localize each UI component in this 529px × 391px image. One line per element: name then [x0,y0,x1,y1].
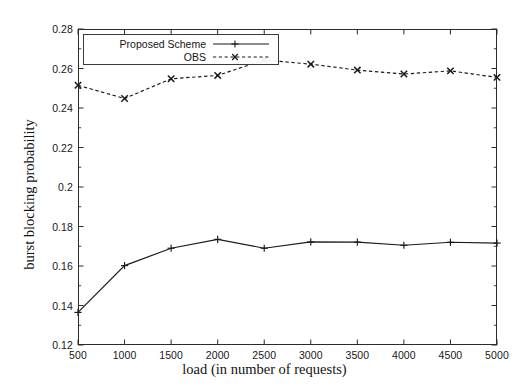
y-axis-title: burst blocking probability [21,70,38,320]
figure: 0.280.260.240.220.20.180.160.140.12 5001… [0,0,529,391]
legend-item-obs: OBS [84,50,273,63]
x-tick-label: 4000 [392,349,416,361]
legend-label: OBS [184,51,206,63]
x-tick-label: 1500 [159,349,183,361]
y-tick-label: 0.24 [52,102,73,114]
legend-label: Proposed Scheme [120,38,206,50]
x-tick-label: 2000 [206,349,230,361]
x-tick-label: 2500 [252,349,276,361]
x-tick-label: 1000 [113,349,137,361]
legend-item-proposed-scheme: Proposed Scheme [84,37,273,50]
plot-area [78,29,497,345]
x-tick-label: 3500 [345,349,369,361]
legend: Proposed Scheme OBS [83,34,279,65]
x-tick-label: 3000 [299,349,323,361]
y-tick-label: 0.18 [52,221,73,233]
x-tick-label: 4500 [439,349,463,361]
y-tick-label: 0.16 [52,260,73,272]
x-tick-label: 500 [69,349,87,361]
x-tick-label: 5000 [485,349,509,361]
y-tick-label: 0.2 [58,181,73,193]
legend-sample-dashed-x [211,51,273,63]
y-tick-label: 0.22 [52,142,73,154]
legend-sample-solid-plus [211,38,273,50]
y-tick-label: 0.26 [52,63,73,75]
x-axis-title: load (in number of requests) [0,361,529,378]
y-tick-label: 0.28 [52,23,73,35]
y-tick-label: 0.14 [52,300,73,312]
